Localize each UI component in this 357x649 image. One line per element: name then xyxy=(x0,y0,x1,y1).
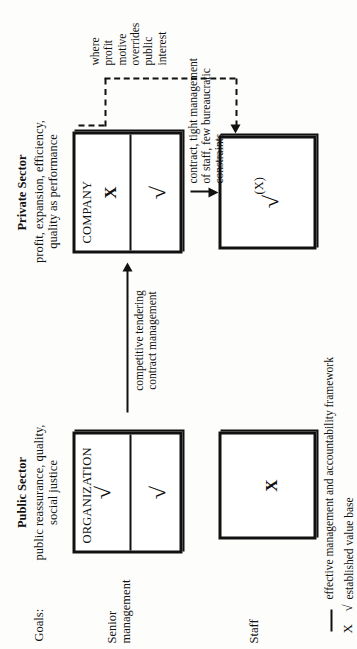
box-organization[interactable]: √ √ ORGANIZATION xyxy=(72,431,182,553)
private-staff-mark: √ xyxy=(260,195,281,208)
dotted-segment-into-box xyxy=(235,78,237,126)
box-private-staff[interactable]: √ (X) xyxy=(218,135,316,249)
box-public-staff[interactable]: X xyxy=(218,431,316,539)
organization-top-mark: √ xyxy=(92,485,113,498)
legend-item-1-text: established value base xyxy=(342,497,355,599)
row-label-staff: Staff xyxy=(246,619,260,643)
box-company[interactable]: X √ COMPANY xyxy=(72,131,182,253)
public-staff-mark: X xyxy=(262,479,279,491)
arrow-profit-motive-label: where profit motive overrides public int… xyxy=(88,22,168,65)
company-bottom-mark: √ xyxy=(147,185,168,198)
arrow-tendering-label: competitive tendering contract managemen… xyxy=(132,262,158,418)
arrow-tendering-head xyxy=(122,262,132,271)
column-heading-public-sector: Public Sector xyxy=(14,407,28,577)
diagram-rotated-wrapper: Public Sector public reassurance, qualit… xyxy=(0,0,357,649)
company-label: COMPANY xyxy=(79,180,94,243)
arrow-tendering-line xyxy=(126,270,128,412)
arrow-contract-label: contract, tight management of staff, few… xyxy=(186,58,225,184)
organization-label: ORGANIZATION xyxy=(79,447,94,543)
legend-item-0-text: effective management and accountability … xyxy=(322,357,335,599)
dotted-segment-up xyxy=(78,124,104,126)
legend-line-symbol xyxy=(330,609,332,631)
organization-bottom-mark: √ xyxy=(147,485,168,498)
private-staff-mark-secondary: (X) xyxy=(251,177,266,194)
dotted-segment-across xyxy=(104,78,106,126)
column-heading-private-sector: Private Sector xyxy=(14,107,28,277)
dotted-arrow-head xyxy=(230,124,240,133)
column-goals-public-sector: public reassurance, quality, social just… xyxy=(31,387,60,597)
column-goals-private-sector: profit, expansion, efficiency, quality a… xyxy=(31,85,60,297)
diagram-canvas: Public Sector public reassurance, qualit… xyxy=(0,0,357,649)
legend-marks-symbol: X √ xyxy=(340,602,355,633)
dotted-segment-down xyxy=(104,77,235,79)
row-label-senior-management: Senior management xyxy=(104,579,133,643)
arrow-contract-head xyxy=(208,187,218,197)
company-top-mark: X xyxy=(101,186,118,198)
goals-row-label: Goals: xyxy=(31,608,45,641)
